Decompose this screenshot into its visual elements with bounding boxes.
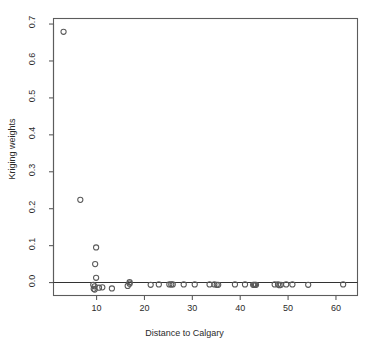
x-tick-label: 20	[132, 303, 156, 313]
x-tick-label: 10	[85, 303, 109, 313]
x-tick-label: 30	[180, 303, 204, 313]
plot-frame	[54, 19, 358, 296]
y-tick-label: 0.6	[27, 47, 37, 71]
scatter-series	[61, 29, 346, 292]
y-tick-label: 0.1	[27, 232, 37, 256]
y-tick-label: 0.5	[27, 84, 37, 108]
y-tick-label: 0.7	[27, 10, 37, 34]
x-tick-label: 50	[276, 303, 300, 313]
y-tick-label: 0.3	[27, 158, 37, 182]
data-point	[94, 275, 99, 280]
x-tick-label: 60	[324, 303, 348, 313]
x-tick-label: 40	[228, 303, 252, 313]
y-tick-label: 0.2	[27, 195, 37, 219]
data-point	[109, 286, 114, 291]
kriging-weights-scatter-figure: Distance to Calgary Kriging weights 1020…	[0, 0, 369, 349]
x-axis-label: Distance to Calgary	[0, 328, 369, 338]
data-point	[78, 197, 83, 202]
data-point	[93, 262, 98, 267]
y-tick-label: 0.0	[27, 269, 37, 293]
data-point	[61, 29, 66, 34]
y-axis-label: Kriging weights	[7, 99, 17, 199]
plot-canvas	[0, 0, 369, 349]
data-point	[94, 245, 99, 250]
y-tick-label: 0.4	[27, 121, 37, 145]
data-point	[100, 285, 105, 290]
